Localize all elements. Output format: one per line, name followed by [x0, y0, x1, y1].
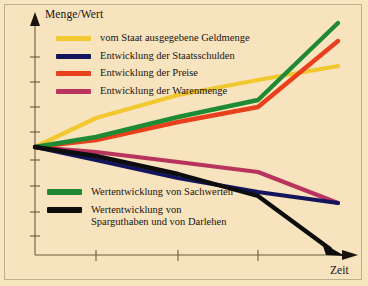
legend-label-sparguthaben-line1: Wertentwicklung von [91, 204, 181, 215]
y-axis-title: Menge/Wert [45, 8, 103, 20]
legend-label-geldmenge: vom Staat ausgegebene Geldmenge [100, 32, 250, 45]
legend-item-geldmenge: vom Staat ausgegebene Geldmenge [56, 32, 250, 46]
legend-swatch-geldmenge [56, 36, 91, 41]
legend-label-warenmenge: Entwicklung der Warenmenge [100, 85, 227, 98]
legend-item-sparguthaben: Wertentwicklung von Sparguthaben und von… [47, 204, 233, 229]
x-axis-title: Zeit [330, 264, 349, 276]
legend-label-sparguthaben: Wertentwicklung von Sparguthaben und von… [91, 204, 226, 229]
legend-item-preise: Entwicklung der Preise [56, 67, 250, 81]
legend-label-sachwerte: Wertentwicklung von Sachwerten [91, 186, 233, 199]
legend-top: vom Staat ausgegebene Geldmenge Entwickl… [56, 32, 250, 102]
legend-item-sachwerte: Wertentwicklung von Sachwerten [47, 186, 233, 199]
legend-item-staatsschulden: Entwicklung der Staatsschulden [56, 50, 250, 64]
legend-swatch-preise [56, 71, 91, 76]
y-axis-arrow-icon [30, 12, 40, 26]
legend-bottom: Wertentwicklung von Sachwerten Wertentwi… [47, 186, 233, 234]
legend-swatch-sachwerte [47, 189, 82, 195]
legend-label-sparguthaben-line2: Sparguthaben und von Darlehen [91, 216, 226, 229]
x-axis-arrow-icon [342, 250, 358, 260]
legend-item-warenmenge: Entwicklung der Warenmenge [56, 85, 250, 99]
legend-label-preise: Entwicklung der Preise [100, 67, 198, 80]
legend-swatch-warenmenge [56, 89, 91, 94]
chart-screenshot: Menge/Wert Zeit vom Staat ausgegebene Ge… [0, 0, 368, 286]
legend-label-staatsschulden: Entwicklung der Staatsschulden [100, 50, 235, 63]
legend-swatch-sparguthaben [47, 207, 82, 213]
legend-swatch-staatsschulden [56, 54, 91, 59]
